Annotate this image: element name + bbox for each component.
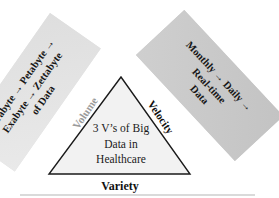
triangle-shape — [0, 0, 279, 198]
triangle-title-line-2: Data in — [61, 137, 181, 153]
diagram-canvas: Terabyte → Petabyte → Exabyte → Zettabyt… — [0, 0, 279, 198]
triangle-title-line-3: Healthcare — [61, 152, 181, 168]
bottom-divider — [20, 194, 255, 196]
variety-label: Variety — [80, 179, 160, 194]
